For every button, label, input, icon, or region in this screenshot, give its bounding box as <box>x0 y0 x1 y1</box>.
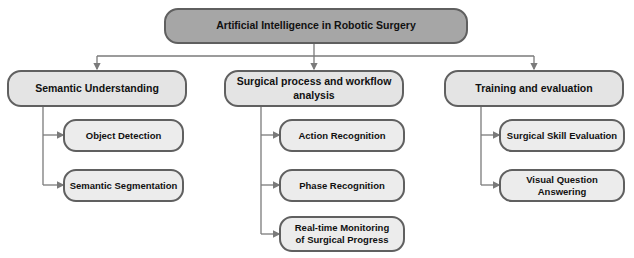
leaf-action-recognition: Action Recognition <box>279 119 405 152</box>
branch-label: Training and evaluation <box>475 82 592 95</box>
branch-label: Surgical process and workflow analysis <box>226 75 402 101</box>
root-node: Artificial Intelligence in Robotic Surge… <box>164 8 468 44</box>
leaf-label: Object Detection <box>86 130 162 142</box>
leaf-realtime-monitoring: Real-time Monitoring of Surgical Progres… <box>279 216 405 252</box>
leaf-label: Action Recognition <box>298 130 385 142</box>
leaf-label: Visual Question Answering <box>501 174 623 198</box>
diagram-canvas: Artificial Intelligence in Robotic Surge… <box>0 0 634 258</box>
leaf-label: Phase Recognition <box>299 180 385 192</box>
leaf-object-detection: Object Detection <box>63 119 184 152</box>
branch-surgical-process: Surgical process and workflow analysis <box>224 70 404 107</box>
leaf-label: Semantic Segmentation <box>70 180 178 192</box>
root-label: Artificial Intelligence in Robotic Surge… <box>216 19 416 32</box>
leaf-visual-question-answering: Visual Question Answering <box>499 169 625 202</box>
leaf-phase-recognition: Phase Recognition <box>279 169 405 202</box>
leaf-label: Real-time Monitoring of Surgical Progres… <box>289 222 395 246</box>
leaf-label: Surgical Skill Evaluation <box>507 130 617 142</box>
branch-semantic-understanding: Semantic Understanding <box>7 70 187 107</box>
leaf-surgical-skill-evaluation: Surgical Skill Evaluation <box>499 119 625 152</box>
leaf-semantic-segmentation: Semantic Segmentation <box>63 169 184 202</box>
branch-training-evaluation: Training and evaluation <box>444 70 624 107</box>
branch-label: Semantic Understanding <box>35 82 159 95</box>
